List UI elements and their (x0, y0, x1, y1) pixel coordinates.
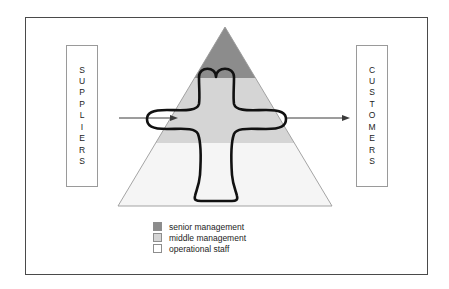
customers-letter: C (369, 65, 375, 76)
customers-letter: R (369, 145, 375, 156)
suppliers-letter: U (79, 76, 85, 87)
customers-letter: S (369, 87, 375, 98)
suppliers-letter: R (79, 145, 85, 156)
legend: senior management middle management oper… (153, 221, 303, 254)
customers-letter: T (369, 99, 374, 110)
suppliers-letter: S (79, 65, 85, 76)
legend-swatch-senior (153, 222, 162, 231)
customers-letter: O (369, 110, 376, 121)
diagram-canvas: S U P P L I E R S C U S T O M E R S seni… (0, 0, 449, 289)
legend-item-middle: middle management (153, 232, 303, 243)
legend-item-operational: operational staff (153, 243, 303, 254)
customers-letter: M (368, 122, 375, 133)
legend-swatch-middle (153, 233, 162, 242)
customers-letter: S (369, 156, 375, 167)
legend-label-senior: senior management (169, 222, 244, 232)
legend-item-senior: senior management (153, 221, 303, 232)
suppliers-letter: E (79, 133, 85, 144)
customers-box: C U S T O M E R S (356, 45, 388, 187)
customers-letter: U (369, 76, 375, 87)
legend-swatch-operational (153, 244, 162, 253)
legend-label-middle: middle management (169, 233, 246, 243)
suppliers-letter: L (80, 110, 85, 121)
suppliers-letter: P (79, 87, 85, 98)
suppliers-letter: I (81, 122, 83, 133)
suppliers-letter: P (79, 99, 85, 110)
legend-label-operational: operational staff (169, 244, 229, 254)
suppliers-box: S U P P L I E R S (66, 45, 98, 187)
customers-letter: E (369, 133, 375, 144)
suppliers-letter: S (79, 156, 85, 167)
